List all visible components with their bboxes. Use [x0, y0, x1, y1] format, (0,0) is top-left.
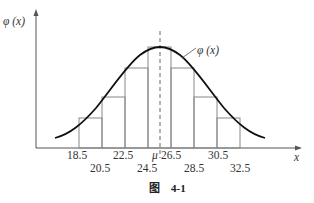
- bar-2: [102, 97, 125, 148]
- tick-label: 18.5: [67, 149, 87, 161]
- tick-label: 28.5: [184, 162, 204, 174]
- mu-label: μ: [151, 149, 158, 162]
- tick-label: 22.5: [113, 149, 133, 161]
- x-axis-arrow-icon: [295, 146, 302, 151]
- tick-label: 24.5: [137, 162, 157, 174]
- tick-label: 32.5: [230, 162, 250, 174]
- caption-prefix: 图: [149, 182, 160, 194]
- tick-label: 30.5: [208, 149, 228, 161]
- bar-7: [217, 118, 240, 148]
- tick-label: 26.5: [161, 149, 181, 161]
- curve-label: φ (x): [197, 44, 219, 57]
- x-axis-label: x: [293, 151, 300, 163]
- curve-label-leader: [182, 48, 196, 58]
- bar-3: [125, 68, 148, 148]
- bar-4: [148, 47, 171, 148]
- bar-6: [194, 97, 217, 148]
- histogram-figure: φ (x) φ (x) x 18.5 22.5 μ 26.5 30.5 20.5…: [0, 0, 314, 203]
- bar-5: [171, 68, 194, 148]
- y-axis-label: φ (x): [3, 15, 25, 28]
- caption-number: 4-1: [171, 182, 186, 194]
- y-axis-arrow-icon: [34, 9, 39, 16]
- tick-label: 20.5: [90, 162, 110, 174]
